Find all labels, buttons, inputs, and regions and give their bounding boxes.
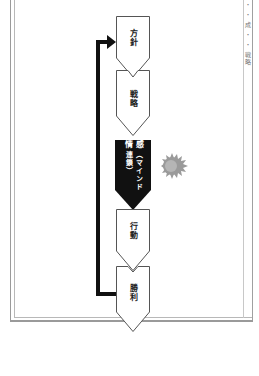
flame-burst-icon	[158, 150, 190, 182]
step-policy: 方針	[116, 16, 150, 78]
frame-left-line	[10, 0, 11, 320]
step-label: 勝利	[116, 270, 150, 316]
loop-bottom-line	[96, 292, 117, 296]
frame-left-inner-line	[14, 0, 15, 318]
loop-vertical-line	[96, 40, 100, 296]
step-label: 方針	[116, 16, 150, 60]
step-label: 行動	[116, 209, 150, 253]
arrowhead-right-icon	[107, 35, 116, 49]
step-label: 戦略	[116, 74, 150, 124]
step-sublabel: （マインド連鎖）	[124, 151, 144, 192]
step-victory: 勝利	[116, 266, 150, 332]
step-label: 感情	[122, 140, 144, 151]
step-strategy: 戦略	[116, 70, 150, 136]
step-action: 行動	[116, 209, 150, 271]
step-label-group: 感情 （マインド連鎖）	[115, 140, 151, 192]
cut-off-edge-text: ・ ・ 成 ・ ・ 戦略	[244, 2, 252, 72]
step-emotion: 感情 （マインド連鎖）	[115, 140, 151, 210]
frame-right-line	[252, 0, 253, 320]
